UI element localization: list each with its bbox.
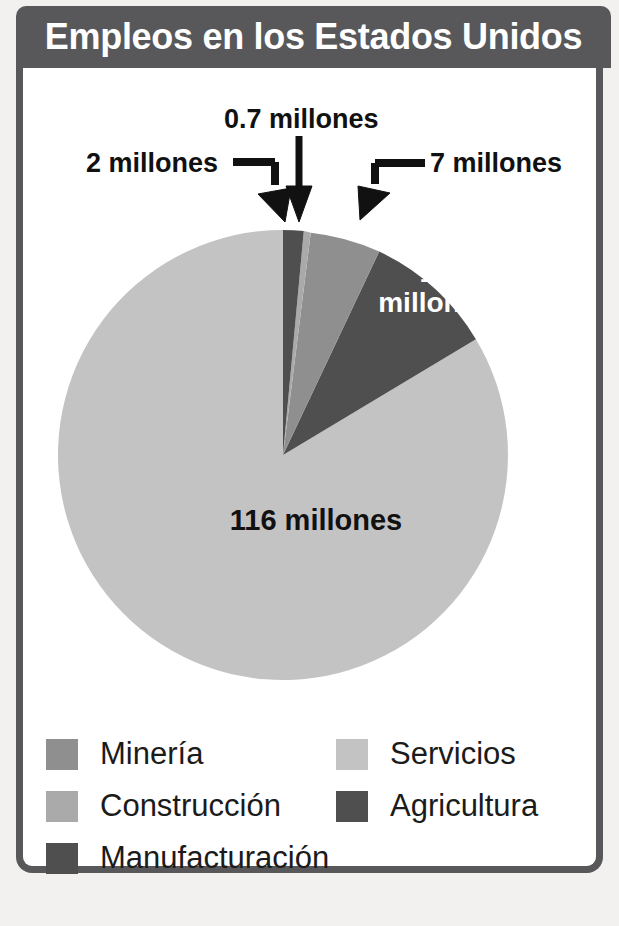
callout-arrow-right-icon xyxy=(358,163,425,220)
legend-swatch-mineria xyxy=(46,739,78,770)
slice-label-manufacturacion: 13 millones xyxy=(375,258,495,318)
legend-item-mineria[interactable]: Minería xyxy=(46,728,329,780)
legend-item-manufacturacion[interactable]: Manufacturación xyxy=(46,832,329,884)
annotation-0-7-millones: 0.7 millones xyxy=(224,104,379,135)
legend-column-left: Minería Construcción Manufacturación xyxy=(46,728,329,884)
callout-arrow-down-icon xyxy=(286,136,312,222)
callout-arrow-left-icon xyxy=(233,162,291,222)
annotation-7-millones: 7 millones xyxy=(430,148,562,179)
legend-swatch-agricultura xyxy=(336,791,368,822)
legend-label-manufacturacion: Manufacturación xyxy=(100,840,329,876)
legend-column-right: Servicios Agricultura xyxy=(336,728,538,832)
legend-swatch-construccion xyxy=(46,791,78,822)
slice-label-manufacturacion-line2: millones xyxy=(375,288,495,318)
slice-label-servicios: 116 millones xyxy=(196,505,436,536)
legend-item-servicios[interactable]: Servicios xyxy=(336,728,538,780)
slice-label-manufacturacion-line1: 13 xyxy=(375,258,495,288)
legend-swatch-servicios xyxy=(336,739,368,770)
legend-item-agricultura[interactable]: Agricultura xyxy=(336,780,538,832)
legend-item-construccion[interactable]: Construcción xyxy=(46,780,329,832)
legend-label-construccion: Construcción xyxy=(100,788,281,824)
legend-label-agricultura: Agricultura xyxy=(390,788,538,824)
legend-label-servicios: Servicios xyxy=(390,736,516,772)
legend-label-mineria: Minería xyxy=(100,736,203,772)
legend-swatch-manufacturacion xyxy=(46,843,78,874)
annotation-2-millones: 2 millones xyxy=(86,148,218,179)
